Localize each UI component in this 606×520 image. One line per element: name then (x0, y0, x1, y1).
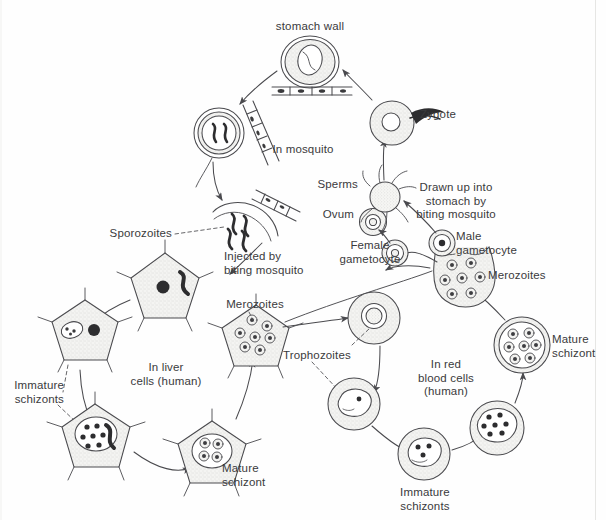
stage-rbc-mature-schizont (494, 317, 550, 373)
label-in-mosquito: In mosquito (258, 143, 348, 157)
stage-rbc-mature-schizont2 (470, 401, 524, 455)
label-drawn-up-into-stomach: Drawn up into stomach by biting mosquito (402, 181, 510, 222)
label-sperms: Sperms (284, 178, 358, 192)
label-immature-schizonts-liver: Immature schizonts (2, 379, 64, 406)
label-zygote: Zygote (420, 108, 490, 122)
stage-ovum (360, 209, 387, 236)
stage-rbc-immature-schizont (398, 428, 450, 480)
label-trophozoites: Trophozoites (283, 349, 369, 363)
label-female-gametocyte: Female gametocyte (330, 239, 410, 266)
label-merozoites-blood: Merozoites (488, 269, 566, 283)
label-immature-schizonts-blood: Immature schizonts (383, 486, 467, 513)
label-in-red-blood-cells: In red blood cells (human) (405, 358, 487, 399)
stage-male-gametocyte (429, 230, 455, 256)
malaria-life-cycle-diagram: stomach wall Zygote In mosquito Sperms D… (0, 0, 606, 520)
label-injected-by-biting-mosquito: Injected by biting mosquito (224, 250, 328, 277)
label-sporozoites: Sporozoites (100, 227, 172, 241)
stage-rbc-trophozoite (328, 378, 380, 430)
label-in-liver-cells: In liver cells (human) (120, 361, 212, 388)
label-mature-schizont-liver: Mature schizont (222, 462, 284, 489)
label-merozoites-liver: Merozoites (215, 298, 295, 312)
label-ovum: Ovum (296, 208, 354, 222)
label-stomach-wall: stomach wall (258, 20, 362, 34)
label-mature-schizont-blood: Mature schizont (552, 333, 606, 360)
label-male-gametocyte: Male gametocyte (456, 230, 528, 257)
stage-rbc-ring (348, 292, 400, 344)
